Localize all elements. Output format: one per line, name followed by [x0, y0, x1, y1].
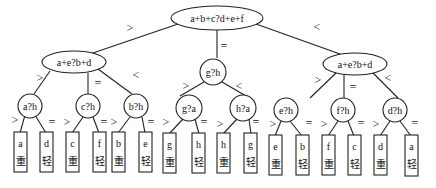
leaf-text: e — [273, 141, 278, 152]
symbol-gt: > — [315, 73, 322, 87]
symbol-gt: > — [373, 117, 380, 131]
leaf-text: 重 — [219, 156, 229, 168]
leaf-text: 轻 — [407, 158, 417, 170]
tree-edge — [249, 119, 251, 134]
leaf-text: 重 — [68, 155, 78, 167]
symbol-eq: = — [253, 115, 260, 129]
symbol-eq: = — [201, 115, 208, 129]
tree-edge — [348, 121, 354, 136]
tree-edge — [35, 115, 46, 133]
leaf-text: 重 — [324, 158, 334, 170]
leaf-text: h — [221, 139, 226, 150]
leaf-text: 重 — [376, 158, 386, 170]
leaf-text: 轻 — [194, 156, 204, 168]
decision-tree-diagram: > = < > = < > < > = < > = > = > = > = > … — [0, 0, 436, 188]
leaf-text: 轻 — [141, 155, 151, 167]
symbol-eq: = — [306, 116, 313, 130]
leaf-text: 轻 — [42, 155, 52, 167]
leaf-text: d — [44, 138, 49, 149]
symbol-gt: > — [37, 71, 44, 85]
symbol-gt: > — [12, 113, 19, 127]
level2-node-left: a+e?b+d — [42, 51, 106, 73]
symbol-eq: = — [148, 115, 155, 129]
symbol-lt: < — [385, 71, 392, 85]
tree-edge — [142, 117, 145, 133]
symbol-gt: > — [127, 21, 134, 35]
leaf-text: g — [248, 139, 253, 150]
symbol-eq: = — [350, 80, 357, 94]
symbol-eq: = — [49, 115, 56, 129]
tree-edge — [93, 117, 99, 133]
symbol-gt: > — [217, 117, 224, 131]
symbol-lt: < — [236, 79, 243, 93]
symbol-eq: = — [101, 115, 108, 129]
tree-edge — [223, 119, 237, 134]
leaf-text: a — [409, 141, 414, 152]
tree-edge — [222, 82, 246, 96]
node-label: f?h — [337, 105, 350, 116]
leaf-text: d — [378, 141, 383, 152]
leaf-text: 轻 — [350, 158, 360, 170]
symbol-gt: > — [111, 115, 118, 129]
leaf-text: g — [167, 139, 172, 150]
leaf-nodes: a 重 d 轻 c 重 f 轻 b 重 e 轻 g 重 h 轻 h 重 g 轻 … — [14, 132, 418, 176]
tree-edge — [400, 121, 411, 136]
leaf-text: h — [196, 139, 201, 150]
tree-edge — [98, 69, 132, 94]
node-label: a?h — [23, 101, 37, 112]
tree-edge — [90, 24, 178, 54]
leaf-text: e — [143, 138, 148, 149]
leaf-text: 轻 — [95, 155, 105, 167]
node-label: a+e?b+d — [57, 57, 92, 68]
node-label: e?h — [279, 105, 293, 116]
symbol-eq: = — [95, 76, 102, 90]
leaf-text: c — [70, 138, 75, 149]
symbol-gt: > — [163, 115, 170, 129]
symbol-lt: < — [314, 20, 321, 34]
symbol-eq: = — [412, 116, 419, 130]
tree-edge — [72, 117, 83, 133]
symbol-eq: = — [358, 116, 365, 130]
tree-edge — [169, 119, 183, 134]
root-label: a+b+c?d+e+f — [190, 13, 244, 24]
symbol-lt: < — [133, 68, 140, 82]
level2-node-right: a+e?b+d — [323, 53, 387, 75]
level3-nodes: a?h c?h b?h g?a h?a e?h f?h d?h — [18, 94, 407, 122]
tree-edge — [290, 121, 302, 136]
node-label: b?h — [129, 101, 143, 112]
root-node: a+b+c?d+e+f — [171, 6, 263, 30]
symbol-eq: = — [221, 39, 228, 53]
tree-edge — [195, 119, 199, 134]
node-label: c?h — [81, 101, 95, 112]
tree-edge — [256, 24, 340, 54]
node-label: g?a — [182, 103, 196, 114]
leaf-text: 重 — [271, 158, 281, 170]
symbol-gt: > — [321, 117, 328, 131]
leaf-text: 重 — [165, 156, 175, 168]
tree-edge — [328, 121, 338, 136]
symbol-gt: > — [270, 117, 277, 131]
leaf-text: c — [352, 141, 357, 152]
leaf-text: 重 — [114, 155, 124, 167]
leaf-text: 轻 — [246, 156, 256, 168]
leaf-text: b — [116, 138, 121, 149]
tree-edge — [20, 115, 25, 133]
tree-edge — [118, 117, 130, 133]
leaf-text: 轻 — [298, 158, 308, 170]
symbol-gt: > — [183, 79, 190, 93]
tree-edge — [380, 121, 390, 136]
leaf-text: a — [18, 138, 23, 149]
level2-node-middle: g?h — [200, 59, 226, 85]
node-label: g?h — [206, 67, 220, 78]
symbol-gt: > — [64, 115, 71, 129]
leaf-text: b — [300, 141, 305, 152]
leaf-text: 重 — [16, 155, 26, 167]
node-label: h?a — [236, 103, 250, 114]
node-label: d?h — [388, 105, 402, 116]
node-label: a+e?b+d — [338, 59, 373, 70]
